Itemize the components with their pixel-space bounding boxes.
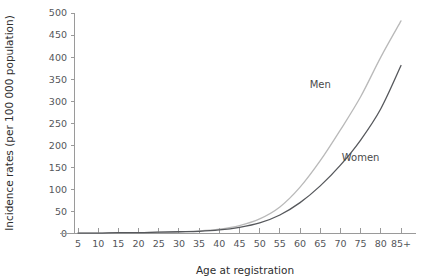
x-tick-label: 55 (274, 238, 286, 249)
y-tick-labels: 050100150200250300350400450500 (49, 7, 67, 239)
x-tick-label: 5 (75, 238, 81, 249)
chart-canvas: 050100150200250300350400450500 510152025… (0, 0, 422, 279)
x-tick-label: 65 (314, 238, 326, 249)
series-annotations: MenWomen (310, 79, 380, 163)
y-tick-label: 100 (49, 184, 67, 195)
x-tick-label: 35 (193, 238, 205, 249)
x-tick-label: 85+ (391, 238, 411, 249)
x-tick-label: 70 (334, 238, 346, 249)
y-axis-group: 050100150200250300350400450500 (49, 7, 75, 239)
y-tick-label: 200 (49, 140, 67, 151)
x-tick-label: 40 (213, 238, 225, 249)
x-tick-label: 75 (355, 238, 367, 249)
y-tick-label: 250 (49, 118, 67, 129)
y-axis-title: Incidence rates (per 100 000 population) (3, 15, 15, 231)
x-axis-title: Age at registration (196, 264, 294, 276)
x-axis-group: 510152025303540455055606570758085+ (60, 228, 416, 250)
y-tick-label: 500 (49, 7, 67, 18)
x-tick-label: 50 (254, 238, 266, 249)
x-tick-label: 20 (133, 238, 145, 249)
series-label-women: Women (342, 152, 380, 163)
y-tick-label: 150 (49, 162, 67, 173)
x-tick-labels: 510152025303540455055606570758085+ (75, 238, 411, 249)
y-tick-label: 450 (49, 29, 67, 40)
x-tick-label: 30 (173, 238, 185, 249)
y-tick-label: 400 (49, 52, 67, 63)
series-label-men: Men (310, 79, 331, 90)
y-tick-label: 300 (49, 96, 67, 107)
x-tick-label: 15 (112, 238, 124, 249)
x-tick-label: 10 (92, 238, 104, 249)
x-tick-label: 80 (375, 238, 387, 249)
x-tick-label: 25 (153, 238, 165, 249)
series-line-women (78, 65, 401, 233)
y-tick-label: 50 (55, 206, 67, 217)
series-lines (78, 21, 401, 233)
x-tick-label: 60 (294, 238, 306, 249)
y-tick-marks (71, 13, 75, 234)
y-tick-label: 350 (49, 74, 67, 85)
series-line-men (78, 21, 401, 233)
incidence-rate-chart: 050100150200250300350400450500 510152025… (0, 0, 422, 279)
x-tick-label: 45 (233, 238, 245, 249)
